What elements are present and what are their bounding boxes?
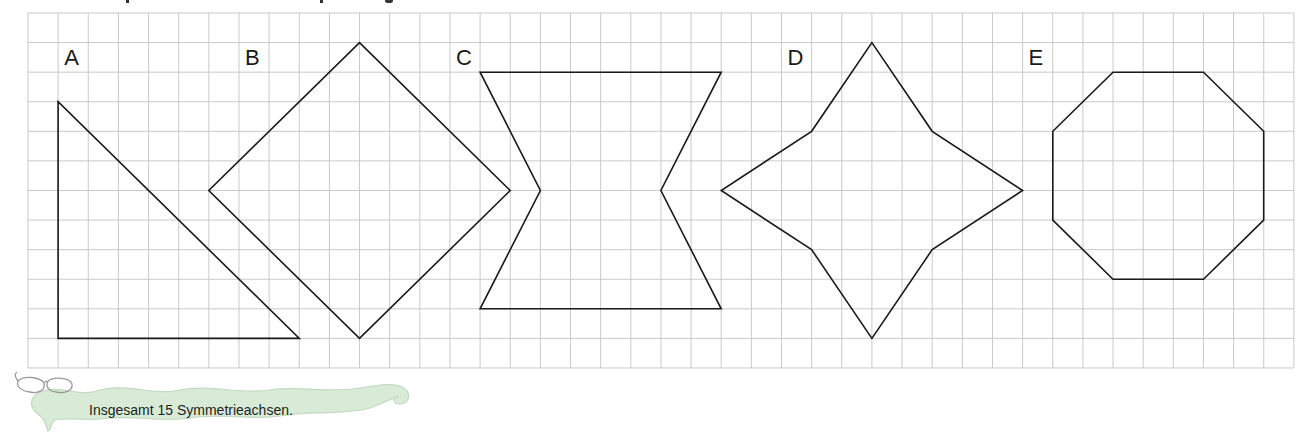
answer-banner: Insgesamt 15 Symmetrieachsen. (15, 372, 408, 431)
figure-label: C (456, 45, 472, 70)
figure-label: E (1029, 45, 1044, 70)
figure-outline (1053, 72, 1264, 279)
cut-off-heading (126, 0, 393, 3)
answer-text: Insgesamt 15 Symmetrieachsen. (89, 402, 293, 418)
figure-e: E (1029, 45, 1264, 279)
worksheet: ABCDE Insgesamt 15 Symmetrieachsen. (0, 0, 1310, 437)
figure-label: D (788, 45, 804, 70)
figure-label: A (64, 45, 79, 70)
figure-label: B (245, 45, 260, 70)
